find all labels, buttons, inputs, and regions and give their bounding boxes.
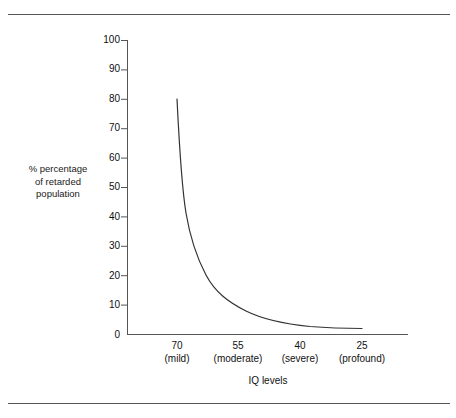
x-tick-label-25: 25 (profound) [317, 339, 407, 365]
data-series-line [177, 99, 362, 329]
x-tick-value-25: 25 [317, 339, 407, 352]
chart-figure: % percentage of retarded population 100 … [0, 0, 456, 418]
x-tick-sub-profound: (profound) [317, 352, 407, 365]
x-axis-title: IQ levels [128, 375, 408, 386]
y-axis-ticks [121, 41, 127, 306]
